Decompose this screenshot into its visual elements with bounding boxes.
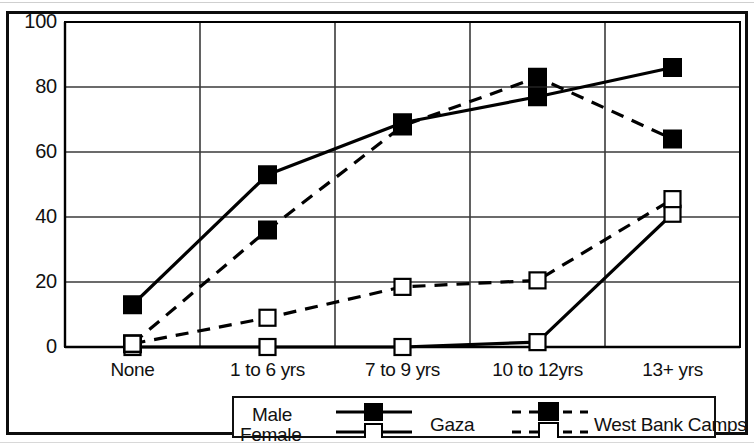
data-point-marker xyxy=(260,339,276,355)
y-axis-tick-label: 100 xyxy=(5,11,57,31)
data-point-marker xyxy=(394,118,411,135)
y-axis-tick-label: 80 xyxy=(5,76,57,96)
chart-screenshot: 100806040200 None1 to 6 yrs7 to 9 yrs10 … xyxy=(0,0,754,444)
legend-swatch-west-bank-camps xyxy=(510,400,590,438)
x-axis-tick-label: 1 to 6 yrs xyxy=(200,359,335,381)
chart-legend: Male Female Gaza West Bank Camps xyxy=(232,396,716,438)
y-axis-tick-label: 60 xyxy=(5,141,57,161)
data-point-marker xyxy=(260,310,276,326)
x-axis-tick-label: 10 to 12yrs xyxy=(470,359,605,381)
data-point-marker xyxy=(529,88,546,105)
data-point-marker xyxy=(124,296,141,313)
x-axis-tick-label: 13+ yrs xyxy=(605,359,740,381)
legend-label-female: Female xyxy=(240,425,302,444)
data-point-marker xyxy=(125,336,141,352)
data-point-marker xyxy=(259,166,276,183)
data-point-marker xyxy=(664,59,681,76)
legend-swatch-gaza xyxy=(334,400,414,438)
legend-label-male: Male xyxy=(252,405,292,424)
data-point-marker xyxy=(665,191,681,207)
legend-label-west-bank-camps: West Bank Camps xyxy=(594,415,746,434)
data-point-marker xyxy=(395,339,411,355)
data-point-marker xyxy=(529,69,546,86)
data-point-marker xyxy=(530,334,546,350)
x-axis-tick-label: None xyxy=(65,359,200,381)
data-point-marker xyxy=(530,272,546,288)
y-axis-tick-label: 20 xyxy=(5,271,57,291)
x-axis-tick-label: 7 to 9 yrs xyxy=(335,359,470,381)
data-point-marker xyxy=(259,222,276,239)
legend-label-gaza: Gaza xyxy=(430,415,474,434)
data-point-marker xyxy=(395,279,411,295)
data-point-marker xyxy=(664,131,681,148)
y-axis-tick-label: 0 xyxy=(5,336,57,356)
plot-background xyxy=(65,22,740,347)
y-axis-tick-label: 40 xyxy=(5,206,57,226)
